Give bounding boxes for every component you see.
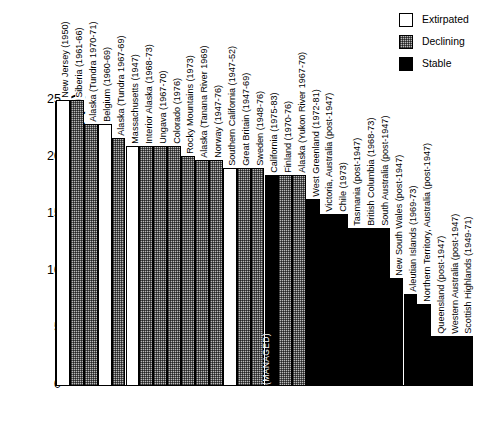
category-label: Queensland (post-1947) xyxy=(437,236,447,336)
category-label: British Columbia (1968-73) xyxy=(367,117,377,227)
chart-legend: ExtirpatedDecliningStable xyxy=(399,10,499,76)
bar xyxy=(56,100,70,385)
bar xyxy=(459,336,473,385)
category-label: West Greenland (1972-81) xyxy=(312,89,322,199)
bar xyxy=(181,156,195,385)
bar xyxy=(348,228,362,385)
bar xyxy=(223,168,237,385)
category-label: South Australia (post-1947) xyxy=(381,115,391,227)
bar xyxy=(237,168,251,385)
bar xyxy=(209,160,223,385)
category-label: Alaska (Tundra 1967-69) xyxy=(117,35,127,137)
category-label: Victoria, Australia (post-1947) xyxy=(326,93,336,214)
bar xyxy=(390,278,404,385)
category-label: Massachusetts (1947) xyxy=(131,54,141,145)
bar xyxy=(98,124,112,385)
category-label: Aleutian Islands (1969-73) xyxy=(409,185,419,293)
bar-annotation-managed: (MANAGED) xyxy=(261,333,271,385)
legend-label: Extirpated xyxy=(422,14,469,25)
bar xyxy=(334,214,348,385)
bar xyxy=(431,336,445,385)
category-label: Belgium (1960-69) xyxy=(103,47,113,124)
bar xyxy=(417,304,431,385)
bar xyxy=(126,146,140,385)
category-label: Ungava (1967-70) xyxy=(159,70,169,145)
legend-item-declining: Declining xyxy=(399,32,499,51)
category-label: Finland (1970-76) xyxy=(284,101,294,175)
category-label: Norway (1947-76) xyxy=(215,85,225,160)
bar xyxy=(278,175,292,385)
bar xyxy=(167,146,181,385)
category-label: Southern California (1947-52) xyxy=(228,46,238,168)
bar xyxy=(195,160,209,385)
category-label: Siberia (1961-66) xyxy=(76,27,86,99)
category-label: Alaska (Tanana River 1969) xyxy=(201,46,211,160)
category-label: New South Wales (post-1947) xyxy=(395,155,405,278)
bar xyxy=(320,214,334,385)
category-label: Rocky Mountains (1973) xyxy=(187,55,197,156)
bar: (MANAGED) xyxy=(265,175,279,385)
category-label: Sweden (1948-76) xyxy=(256,91,266,168)
bar xyxy=(139,146,153,385)
bar xyxy=(84,124,98,385)
category-label: Western Australia (post-1947) xyxy=(451,214,461,336)
category-label: Great Britain (1947-69) xyxy=(242,73,252,168)
bar xyxy=(112,138,126,385)
legend-swatch-declining xyxy=(399,35,413,49)
bar xyxy=(445,336,459,385)
bar xyxy=(153,146,167,385)
category-label: Northern Territory, Australia (post-1947… xyxy=(423,143,433,304)
legend-item-stable: Stable xyxy=(399,54,499,73)
category-label: Chile (1973) xyxy=(340,162,350,214)
category-label: Tasmania (post-1947) xyxy=(354,137,364,227)
bar xyxy=(292,175,306,385)
bar xyxy=(376,228,390,385)
category-label: New Jersey (1950) xyxy=(62,21,72,99)
bar xyxy=(306,199,320,385)
category-label: California (1975-83) xyxy=(270,93,280,175)
bar xyxy=(404,294,418,385)
legend-label: Stable xyxy=(422,58,451,69)
bar xyxy=(70,100,84,385)
bar xyxy=(362,228,376,385)
category-label: Interior Alaska (1968-73) xyxy=(145,44,155,146)
shell-thinning-bar-chart: Shell-thinning (%) 0510152025 (MANAGED) … xyxy=(0,0,501,433)
legend-item-extirpated: Extirpated xyxy=(399,10,499,29)
category-label: Colorado (1976) xyxy=(173,78,183,146)
legend-swatch-stable xyxy=(399,57,413,71)
legend-swatch-extirpated xyxy=(399,13,413,27)
legend-label: Declining xyxy=(422,36,465,47)
category-label: Alaska (Tundra 1970-71) xyxy=(89,21,99,123)
category-label: Alaska (Yukon River 1967-70) xyxy=(298,52,308,175)
category-label: Scottish Highlands (1949-71) xyxy=(465,216,475,335)
